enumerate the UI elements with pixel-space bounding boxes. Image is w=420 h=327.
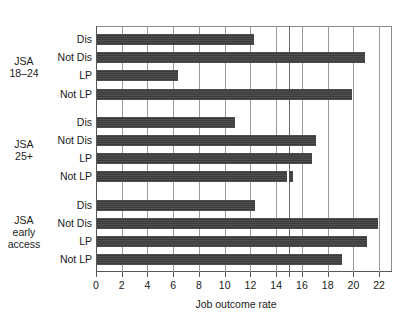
plot-area	[96, 26, 392, 272]
category-label: Dis	[77, 200, 92, 211]
bar	[97, 218, 378, 229]
x-tick-label: 22	[366, 279, 392, 291]
x-tick-label: 20	[340, 279, 366, 291]
x-tick-label: 10	[212, 279, 238, 291]
category-label: LP	[79, 70, 92, 81]
category-label: Not Dis	[58, 135, 92, 146]
bar	[97, 135, 316, 146]
bar	[97, 52, 365, 63]
x-tick-20	[353, 272, 354, 277]
x-tick-2	[122, 272, 123, 277]
x-tick-16	[302, 272, 303, 277]
bar	[97, 117, 235, 128]
bar	[97, 70, 178, 81]
bar	[97, 236, 367, 247]
x-tick-12	[250, 272, 251, 277]
x-tick-22	[379, 272, 380, 277]
gridline-22	[379, 26, 380, 272]
x-axis-line	[96, 271, 392, 272]
category-label: Not LP	[60, 254, 92, 265]
bar	[97, 200, 255, 211]
bar-notch	[287, 171, 289, 182]
x-tick-0	[96, 272, 97, 277]
category-label: Not LP	[60, 89, 92, 100]
bar	[97, 171, 293, 182]
bar	[97, 153, 312, 164]
x-tick-label: 18	[315, 279, 341, 291]
x-tick-10	[225, 272, 226, 277]
x-axis-title: Job outcome rate	[0, 298, 420, 310]
x-tick-label: 16	[289, 279, 315, 291]
x-tick-14	[276, 272, 277, 277]
x-tick-label: 8	[186, 279, 212, 291]
category-label: LP	[79, 236, 92, 247]
category-label: Not Dis	[58, 52, 92, 63]
bar-chart: JSA18–24JSA25+JSAearlyaccess DisNot DisL…	[0, 0, 420, 327]
bar	[97, 34, 254, 45]
category-label: Not LP	[60, 171, 92, 182]
x-tick-label: 14	[263, 279, 289, 291]
x-axis-title-text: Job outcome rate	[195, 298, 276, 310]
x-tick-4	[147, 272, 148, 277]
x-tick-label: 4	[134, 279, 160, 291]
x-tick-18	[328, 272, 329, 277]
x-tick-label: 2	[109, 279, 135, 291]
x-tick-label: 12	[237, 279, 263, 291]
bar	[97, 89, 352, 100]
x-tick-label: 6	[160, 279, 186, 291]
category-label-column: DisNot DisLPNot LPDisNot DisLPNot LPDisN…	[0, 26, 92, 272]
x-tick-reference	[289, 272, 290, 277]
category-label: Dis	[77, 34, 92, 45]
x-tick-8	[199, 272, 200, 277]
category-label: Not Dis	[58, 218, 92, 229]
x-tick-label: 0	[83, 279, 109, 291]
x-tick-6	[173, 272, 174, 277]
category-label: LP	[79, 153, 92, 164]
bar	[97, 254, 342, 265]
category-label: Dis	[77, 117, 92, 128]
